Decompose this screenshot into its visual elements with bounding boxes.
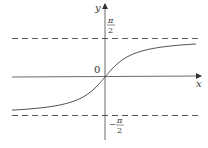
x-axis bbox=[12, 76, 201, 77]
upper-asymptote-label: π 2 bbox=[107, 16, 115, 35]
pi-numerator: π bbox=[116, 116, 123, 125]
x-axis-label: x bbox=[196, 78, 202, 89]
pi-numerator: π bbox=[107, 16, 114, 25]
two-denominator: 2 bbox=[108, 26, 113, 35]
y-axis-label: y bbox=[94, 2, 101, 13]
two-denominator: 2 bbox=[117, 126, 122, 135]
minus-sign: − bbox=[109, 120, 116, 129]
origin-label: 0 bbox=[94, 64, 100, 75]
arctan-graph: y x 0 π 2 − π 2 bbox=[0, 0, 208, 148]
lower-asymptote-label: − π 2 bbox=[109, 116, 124, 135]
graph-svg: y x 0 π 2 − π 2 bbox=[0, 0, 208, 148]
